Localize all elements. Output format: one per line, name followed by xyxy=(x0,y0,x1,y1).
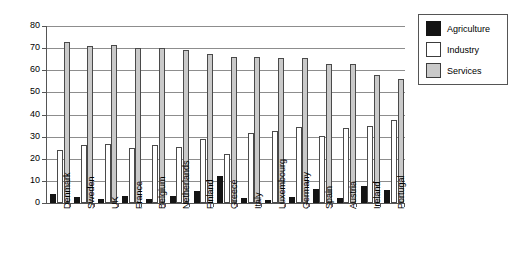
bar-agriculture xyxy=(170,196,176,203)
bar-group xyxy=(361,26,380,203)
bar-agriculture xyxy=(265,200,271,203)
y-tick-label: 50 xyxy=(0,87,40,96)
bar-agriculture xyxy=(313,189,319,203)
x-tick-mark xyxy=(356,203,357,207)
y-tick-mark xyxy=(42,137,46,138)
bar-services xyxy=(135,48,141,203)
bar-services xyxy=(111,45,117,203)
bar-group xyxy=(98,26,117,203)
bar-agriculture xyxy=(122,196,128,203)
y-tick-mark xyxy=(42,181,46,182)
bar-services xyxy=(254,57,260,203)
bar-agriculture xyxy=(337,198,343,203)
y-tick-mark xyxy=(42,159,46,160)
y-tick-label: 60 xyxy=(0,65,40,74)
chart-legend: AgricultureIndustryServices xyxy=(418,14,508,85)
legend-item-label: Agriculture xyxy=(447,24,490,34)
x-tick-label: Luxembourg xyxy=(278,159,287,209)
bar-group xyxy=(313,26,332,203)
industry-swatch-icon xyxy=(426,42,441,57)
x-tick-mark xyxy=(404,203,405,207)
bar-agriculture xyxy=(384,190,390,203)
x-tick-mark xyxy=(165,203,166,207)
y-tick-label: 80 xyxy=(0,21,40,30)
x-tick-mark xyxy=(141,203,142,207)
x-tick-mark xyxy=(118,203,119,207)
bar-agriculture xyxy=(217,176,223,203)
bar-chart: 01020304050607080 DenmarkSwedenUKFranceB… xyxy=(0,0,516,274)
bar-group xyxy=(217,26,236,203)
bar-agriculture xyxy=(98,199,104,203)
x-tick-mark xyxy=(237,203,238,207)
services-swatch-icon xyxy=(426,63,441,78)
bar-group xyxy=(122,26,141,203)
x-tick-mark xyxy=(332,203,333,207)
x-tick-mark xyxy=(285,203,286,207)
y-tick-mark xyxy=(42,115,46,116)
x-tick-mark xyxy=(309,203,310,207)
plot-area xyxy=(46,26,405,204)
x-tick-mark xyxy=(94,203,95,207)
y-tick-mark xyxy=(42,26,46,27)
x-tick-mark xyxy=(70,203,71,207)
y-tick-label: 30 xyxy=(0,132,40,141)
bar-agriculture xyxy=(146,199,152,203)
bar-group xyxy=(241,26,260,203)
y-tick-label: 10 xyxy=(0,176,40,185)
x-tick-mark xyxy=(213,203,214,207)
legend-item-services[interactable]: Services xyxy=(426,63,502,78)
legend-item-label: Services xyxy=(447,66,482,76)
legend-item-agriculture[interactable]: Agriculture xyxy=(426,21,502,36)
x-tick-label: Netherlands xyxy=(182,160,191,209)
y-tick-label: 40 xyxy=(0,110,40,119)
y-tick-label: 0 xyxy=(0,198,40,207)
y-tick-label: 20 xyxy=(0,154,40,163)
y-tick-label: 70 xyxy=(0,43,40,52)
bar-agriculture xyxy=(50,194,56,203)
bar-agriculture xyxy=(74,197,80,203)
y-tick-mark xyxy=(42,203,46,204)
bar-services xyxy=(326,64,332,203)
legend-item-industry[interactable]: Industry xyxy=(426,42,502,57)
bar-group xyxy=(194,26,213,203)
x-tick-mark xyxy=(380,203,381,207)
bar-group xyxy=(337,26,356,203)
agriculture-swatch-icon xyxy=(426,21,441,36)
legend-item-label: Industry xyxy=(447,45,479,55)
bar-agriculture xyxy=(194,191,200,203)
bar-industry xyxy=(105,144,111,203)
bar-agriculture xyxy=(361,186,367,203)
y-tick-mark xyxy=(42,70,46,71)
bar-agriculture xyxy=(241,198,247,203)
x-tick-mark xyxy=(261,203,262,207)
bar-agriculture xyxy=(289,197,295,203)
x-tick-mark xyxy=(189,203,190,207)
y-tick-mark xyxy=(42,92,46,93)
y-tick-mark xyxy=(42,48,46,49)
